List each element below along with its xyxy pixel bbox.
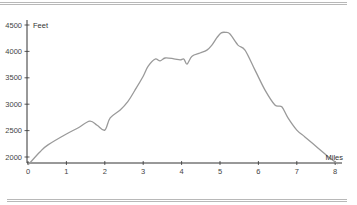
y-tick-label: 3500 bbox=[5, 73, 22, 82]
x-tick-label: 0 bbox=[26, 167, 30, 176]
y-tick-label: 3000 bbox=[5, 100, 22, 109]
x-tick-label: 2 bbox=[103, 167, 107, 176]
x-tick-label: 5 bbox=[218, 167, 222, 176]
bottom-rule-inner bbox=[7, 201, 347, 202]
y-axis-title: Feet bbox=[33, 21, 49, 30]
bottom-rule-outer bbox=[7, 199, 347, 200]
x-tick-label: 6 bbox=[256, 167, 260, 176]
axes bbox=[27, 20, 342, 163]
y-tick-label: 2000 bbox=[5, 153, 22, 162]
x-tick-label: 1 bbox=[64, 167, 68, 176]
y-tick-label: 4000 bbox=[5, 47, 22, 56]
y-tick-label: 2500 bbox=[5, 126, 22, 135]
x-tick-label: 7 bbox=[295, 167, 299, 176]
elevation-chart: 200025003000350040004500012345678 Feet M… bbox=[0, 0, 357, 205]
elevation-line bbox=[28, 32, 338, 165]
ticks: 200025003000350040004500012345678 bbox=[5, 21, 337, 177]
x-tick-label: 8 bbox=[333, 167, 337, 176]
y-tick-label: 4500 bbox=[5, 21, 22, 30]
x-tick-label: 3 bbox=[141, 167, 145, 176]
x-axis-title: Miles bbox=[325, 153, 343, 162]
x-tick-label: 4 bbox=[180, 167, 184, 176]
